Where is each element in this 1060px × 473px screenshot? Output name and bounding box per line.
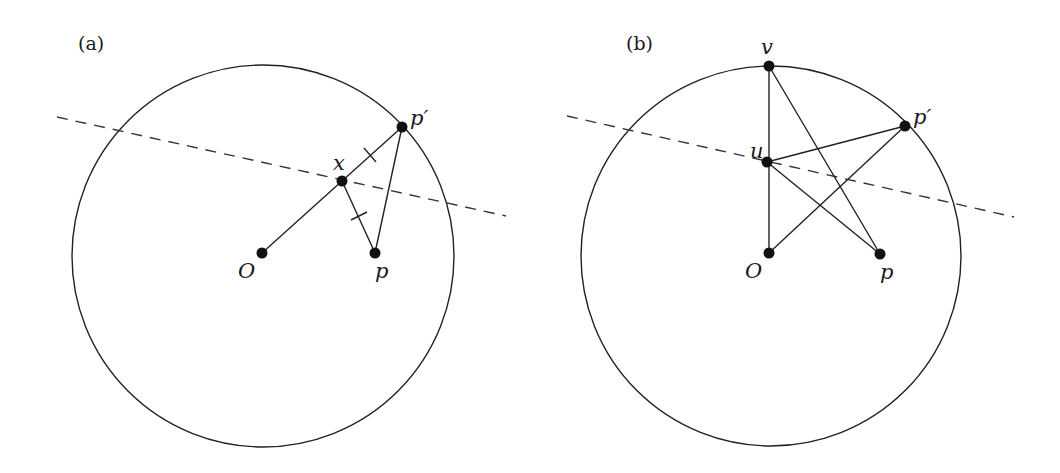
panel-a-bisector-line [57, 117, 506, 216]
panel-b-bisector-line [567, 116, 1014, 217]
label-x: x [333, 151, 345, 175]
segment-p-p-prime [375, 127, 402, 253]
point-p [370, 248, 381, 259]
label-O: O [238, 259, 255, 283]
geometry-figure: (a) O p x p′ (b) v u O p p′ [0, 0, 1060, 473]
point-p-prime [900, 121, 911, 132]
point-v [764, 61, 775, 72]
segment-O-p-prime [262, 127, 402, 253]
label-u: u [750, 139, 764, 163]
panel-b-label: (b) [626, 32, 653, 54]
segment-u-p-prime [767, 126, 905, 162]
panel-b: (b) v u O p p′ [567, 32, 1014, 446]
point-p [875, 249, 886, 260]
label-p-prime: p′ [913, 105, 931, 129]
label-p: p [880, 260, 893, 284]
segment-u-p [767, 162, 880, 254]
point-p-prime [397, 122, 408, 133]
point-O [764, 248, 775, 259]
point-x [337, 176, 348, 187]
label-O: O [745, 259, 762, 283]
label-p-prime: p′ [410, 106, 428, 130]
label-p: p [375, 259, 388, 283]
panel-a-label: (a) [78, 32, 104, 54]
segment-v-p [769, 66, 880, 254]
segment-O-p-prime [769, 126, 905, 253]
panel-a: (a) O p x p′ [57, 32, 506, 447]
point-O [257, 248, 268, 259]
label-v: v [761, 35, 773, 59]
